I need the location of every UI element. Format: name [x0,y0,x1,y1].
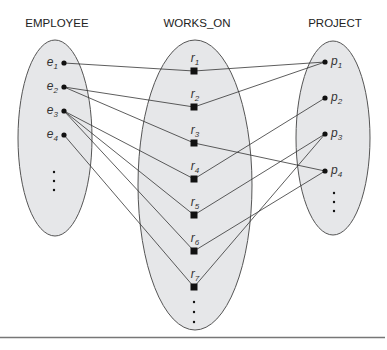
e3-point [61,108,66,113]
r1-node [191,68,198,75]
works-on-title: WORKS_ON [163,17,230,29]
p3-point [322,131,327,136]
r3-node [191,140,198,147]
ellipsis-dot [53,171,55,173]
ellipsis-dot [53,189,55,191]
p4-point [322,168,327,173]
e4-point [61,132,66,137]
r5-node [191,212,198,219]
p1-point [322,59,327,64]
ellipsis-dot [333,192,335,194]
e2-point [61,84,66,89]
r6-node [191,248,198,255]
ellipsis-dot [193,311,195,313]
er-instance-diagram: e1e2e3e4r1r2r3r4r5r6r7p1p2p3p4 EMPLOYEE … [0,0,387,350]
ellipsis-dot [333,210,335,212]
employee-title: EMPLOYEE [25,17,89,29]
r2-node [191,104,198,111]
p2-point [322,95,327,100]
ellipsis-dot [53,180,55,182]
r7-node [191,284,198,291]
ellipsis-dot [193,301,195,303]
r4-node [191,176,198,183]
e1-point [61,60,66,65]
set-titles: EMPLOYEE WORKS_ON PROJECT [25,17,361,29]
ellipsis-dot [193,321,195,323]
project-title: PROJECT [308,17,362,29]
ellipsis-dot [333,201,335,203]
